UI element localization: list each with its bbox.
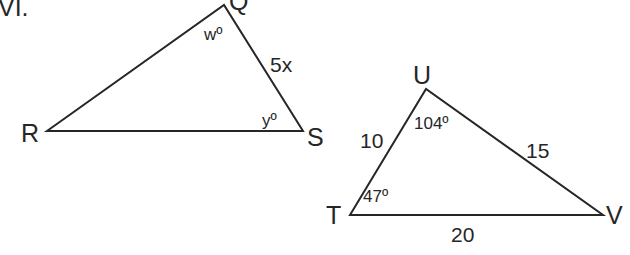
angle-label-u: 104º	[414, 114, 449, 133]
geometry-diagram: VI. R Q S wº yº 5x U T V 104º 47º 10 15 …	[0, 0, 630, 255]
vertex-label-v: V	[606, 201, 623, 229]
problem-number: VI.	[0, 0, 29, 21]
angle-label-w: wº	[203, 25, 223, 44]
side-label-tu: 10	[360, 129, 383, 152]
triangle-qrs: R Q S wº yº 5x	[21, 0, 324, 151]
angle-label-t: 47º	[363, 187, 388, 206]
side-label-uv: 15	[526, 139, 549, 162]
vertex-label-q: Q	[229, 0, 248, 15]
side-label-qs: 5x	[270, 53, 293, 76]
vertex-label-r: R	[21, 119, 39, 147]
vertex-label-s: S	[307, 123, 324, 151]
angle-label-y: yº	[262, 111, 277, 130]
side-label-tv: 20	[451, 223, 474, 246]
vertex-label-t: T	[326, 201, 341, 229]
triangle-tuv: U T V 104º 47º 10 15 20	[326, 61, 623, 246]
vertex-label-u: U	[413, 61, 431, 89]
